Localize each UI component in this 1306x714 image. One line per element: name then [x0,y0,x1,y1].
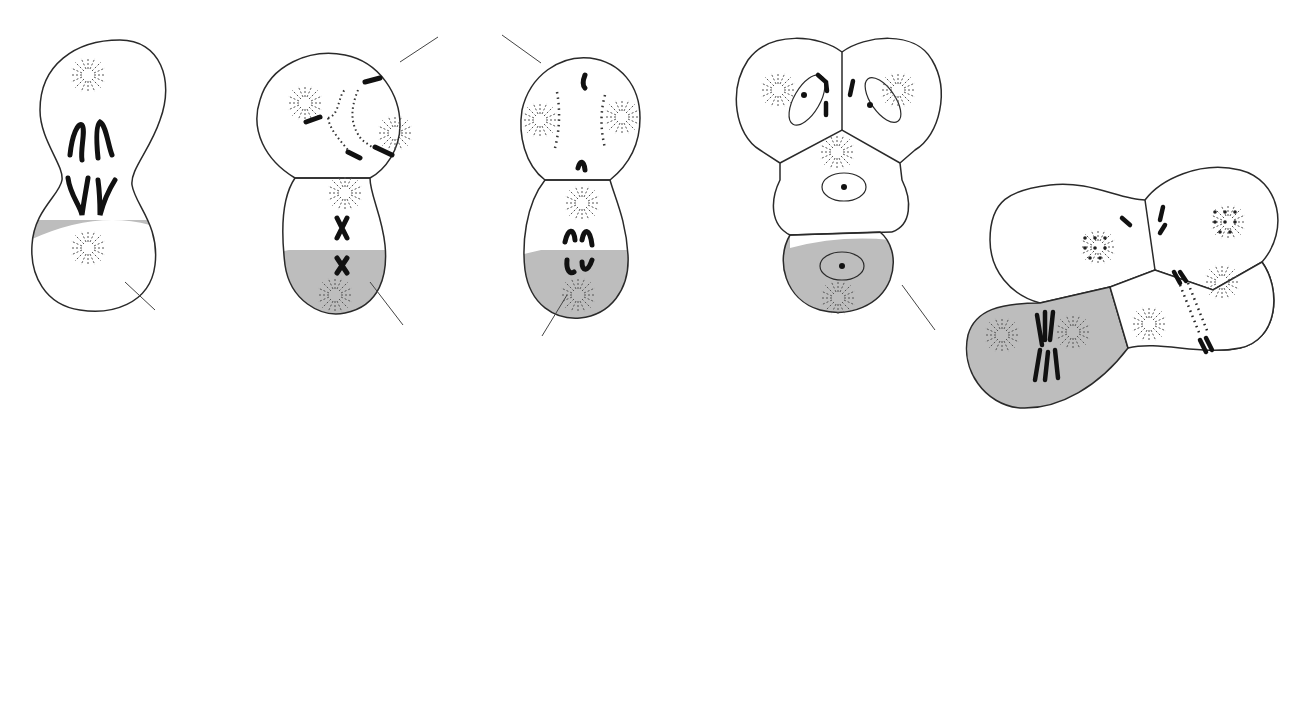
embryo-diagram [0,0,1306,714]
embryo-a5 [967,167,1278,408]
embryo-a2 [257,37,438,330]
embryo-a3 [502,35,650,336]
embryo-a1 [0,40,200,340]
embryo-a4 [736,38,941,330]
